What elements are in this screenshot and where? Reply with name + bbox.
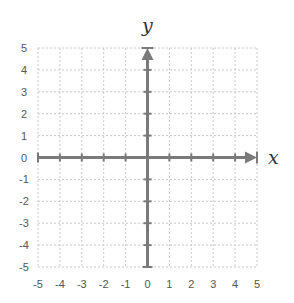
- x-tick-label: -5: [28, 278, 48, 290]
- y-tick-label: 1: [14, 130, 34, 142]
- x-tick-label: -2: [94, 278, 114, 290]
- y-tick-label: 5: [14, 42, 34, 54]
- x-tick-label: 2: [181, 278, 201, 290]
- y-tick-label: 0: [14, 152, 34, 164]
- y-tick-label: 4: [14, 64, 34, 76]
- coordinate-plane: [0, 0, 294, 303]
- x-tick-label: 0: [138, 278, 158, 290]
- x-axis-arrow-icon: [245, 152, 257, 164]
- axes: [38, 48, 257, 267]
- x-tick-label: 5: [247, 278, 267, 290]
- x-tick-label: 1: [159, 278, 179, 290]
- x-axis-title: x: [268, 146, 279, 168]
- x-tick-label: -4: [50, 278, 70, 290]
- y-tick-label: -1: [14, 173, 34, 185]
- y-axis-arrow-icon: [142, 48, 154, 60]
- y-axis-title: y: [142, 14, 153, 36]
- x-tick-label: -3: [72, 278, 92, 290]
- y-tick-label: -2: [14, 195, 34, 207]
- y-tick-label: -3: [14, 217, 34, 229]
- y-tick-label: 3: [14, 86, 34, 98]
- x-tick-label: 4: [225, 278, 245, 290]
- y-tick-label: -4: [14, 239, 34, 251]
- x-tick-label: -1: [116, 278, 136, 290]
- y-tick-label: -5: [14, 261, 34, 273]
- y-tick-label: 2: [14, 108, 34, 120]
- x-tick-label: 3: [203, 278, 223, 290]
